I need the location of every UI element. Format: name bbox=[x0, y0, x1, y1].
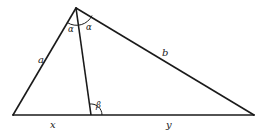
apex-angle-right-label: α bbox=[86, 22, 92, 32]
beta-angle-label: β bbox=[95, 100, 101, 110]
bottom-right-vertex bbox=[253, 114, 255, 116]
apex-vertex bbox=[75, 7, 77, 9]
base-y-label: y bbox=[165, 119, 172, 130]
apex-angle-left-label: α bbox=[68, 24, 74, 34]
diagram-canvas: α α a b β x y bbox=[0, 0, 261, 133]
base-x-label: x bbox=[50, 119, 56, 130]
triangle-diagram: α α a b β x y bbox=[0, 0, 261, 133]
side-b-label: b bbox=[162, 47, 168, 58]
side-a-line bbox=[13, 8, 76, 115]
side-b-line bbox=[76, 8, 254, 115]
side-a-label: a bbox=[38, 54, 44, 65]
bottom-left-vertex bbox=[12, 114, 14, 116]
